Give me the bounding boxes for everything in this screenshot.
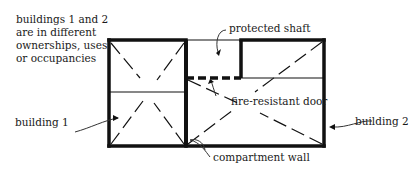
void-diagonals xyxy=(111,42,322,144)
building-1-walls xyxy=(109,40,186,146)
ownership-note: buildings 1 and 2 are in different owner… xyxy=(16,13,108,65)
note-line: ownerships, uses xyxy=(16,39,108,52)
building-2-label: building 2 xyxy=(355,115,409,128)
leader-lines xyxy=(75,30,372,157)
note-line: or occupancies xyxy=(16,52,108,65)
building-1-label: building 1 xyxy=(15,116,69,129)
compartment-wall-label: compartment wall xyxy=(213,151,310,164)
leader-arrowheads xyxy=(113,49,335,130)
protected-shaft-label: protected shaft xyxy=(229,22,310,35)
fire-resistant-door-label: fire-resistant door xyxy=(231,95,327,108)
note-line: buildings 1 and 2 xyxy=(16,13,108,26)
note-line: are in different xyxy=(16,26,108,39)
